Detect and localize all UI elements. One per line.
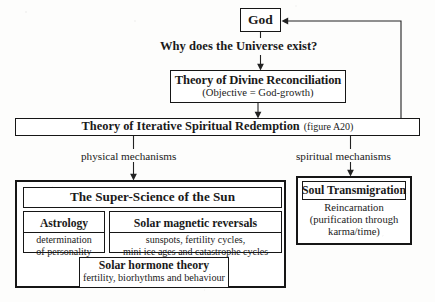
node-soul-title: Soul Transmigration <box>302 184 406 197</box>
edge-label-physical-text: physical mechanisms <box>81 150 176 162</box>
node-super-science-title: The Super-Science of the Sun <box>70 190 235 205</box>
node-soul-body: Reincarnation (purification through karm… <box>302 202 406 240</box>
diagram-canvas: God Why does the Universe exist? Theory … <box>0 0 435 302</box>
node-solar-hormone-theory[interactable]: Solar hormone theory fertility, biorhyth… <box>79 257 229 288</box>
node-astrology-header: Astrology <box>24 212 104 233</box>
node-divine-title: Theory of Divine Reconciliation <box>171 73 345 87</box>
node-hormone-title: Solar hormone theory <box>80 259 228 272</box>
node-iterative-reference: (figure A20) <box>304 121 354 132</box>
node-iterative-redemption[interactable]: Theory of Iterative Spiritual Redemption… <box>15 118 420 136</box>
node-iterative-title: Theory of Iterative Spiritual Redemption <box>82 120 300 134</box>
node-soul-line2: (purification through <box>302 214 406 226</box>
node-astrology-title: Astrology <box>40 217 88 230</box>
node-soul-line3: karma/time) <box>302 226 406 238</box>
node-magnetic-line1: sunspots, fertility cycles, <box>110 233 281 245</box>
edge-label-physical-mechanisms: physical mechanisms <box>81 150 176 162</box>
edge-label-question: Why does the Universe exist? <box>160 39 317 54</box>
arrowhead-into-god <box>282 18 289 25</box>
node-super-science-group[interactable]: The Super-Science of the Sun Astrology d… <box>15 180 286 288</box>
edge-label-question-text: Why does the Universe exist? <box>160 39 317 53</box>
node-astrology-line2: of personality <box>24 245 104 257</box>
node-god[interactable]: God <box>240 8 281 32</box>
node-astrology-line1: determination <box>24 233 104 245</box>
node-god-label: God <box>248 12 273 27</box>
node-soul-transmigration[interactable]: Soul Transmigration Reincarnation (purif… <box>296 176 412 245</box>
node-magnetic-title: Solar magnetic reversals <box>134 216 257 230</box>
node-divine-subtitle: (Objective = God-growth) <box>171 87 345 99</box>
node-solar-magnetic-reversals[interactable]: Solar magnetic reversals sunspots, ferti… <box>109 211 282 253</box>
node-magnetic-header: Solar magnetic reversals <box>110 212 281 233</box>
node-divine-reconciliation[interactable]: Theory of Divine Reconciliation (Objecti… <box>170 70 346 103</box>
node-hormone-line1: fertility, biorhythms and behaviour <box>80 272 228 284</box>
node-astrology[interactable]: Astrology determination of personality <box>23 211 105 253</box>
node-soul-header: Soul Transmigration <box>302 181 406 200</box>
node-super-science-header: The Super-Science of the Sun <box>23 187 282 208</box>
node-soul-line1: Reincarnation <box>302 202 406 214</box>
edge-label-spiritual-mechanisms: spiritual mechanisms <box>296 150 391 162</box>
node-magnetic-line2: mini ice ages and catastrophe cycles <box>110 245 281 257</box>
edge-label-spiritual-text: spiritual mechanisms <box>296 150 391 162</box>
